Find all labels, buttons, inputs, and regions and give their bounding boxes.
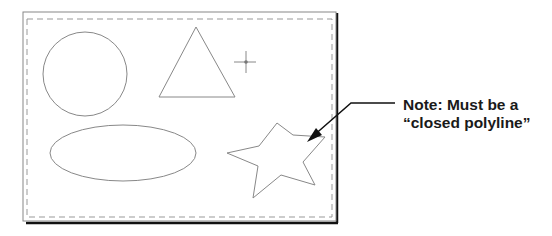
note-line-1: Note: Must be a [403,96,530,114]
note-line-2: “closed polyline” [403,114,530,132]
callout-note: Note: Must be a “closed polyline” [403,96,530,132]
sheet-frame [23,12,336,221]
